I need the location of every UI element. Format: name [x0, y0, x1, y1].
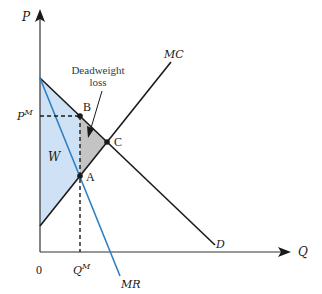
x-axis-label: Q	[298, 245, 308, 259]
deadweight-arrow-line	[91, 91, 102, 128]
welfare-label: W	[48, 150, 62, 164]
point-b-label: B	[83, 100, 91, 114]
point-c-marker	[104, 139, 110, 145]
point-a-marker	[77, 173, 83, 179]
mr-label: MR	[120, 278, 141, 291]
mc-label: MC	[163, 48, 184, 61]
deadweight-label-line2: loss	[89, 76, 106, 88]
y-axis-label: P	[21, 10, 31, 24]
demand-label: D	[215, 238, 225, 251]
price-monopoly-label: PM	[16, 108, 33, 123]
monopoly-deadweight-diagram: P Q 0 MC D MR B C A PM QM W Deadweight l…	[0, 0, 322, 294]
deadweight-label-line1: Deadweight	[71, 64, 124, 76]
quantity-monopoly-label: QM	[73, 262, 91, 277]
point-b-marker	[77, 113, 83, 119]
origin-label: 0	[36, 263, 42, 277]
point-c-label: C	[114, 135, 122, 149]
point-a-label: A	[86, 170, 95, 184]
